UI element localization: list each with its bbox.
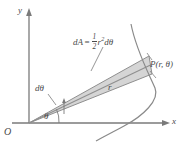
x-axis-label: x [172,117,176,126]
formula-fraction: 12 [92,33,97,50]
y-axis-label: y [18,6,22,15]
formula-fraction-numerator: 1 [92,33,97,41]
theta-label: θ [44,112,48,121]
d-theta-label: dθ [35,84,44,93]
y-axis [26,8,32,123]
point-p-label: P(r, θ) [150,60,173,69]
dtheta-leader-line [48,94,56,105]
origin-label: O [4,127,11,137]
formula-angle-differential: dθ [104,37,113,47]
formula-equals: = [83,37,91,47]
formula-lhs: dA [73,37,83,47]
polar-area-element-diagram: y x O θ dθ r P(r, θ) dA=12r2dθ [0,0,187,147]
radius-label: r [108,83,112,92]
diagram-canvas [0,0,187,147]
x-axis [12,120,170,126]
formula-fraction-denominator: 2 [92,43,97,51]
area-element-formula: dA=12r2dθ [73,33,113,50]
formula-leader-line [91,47,103,71]
